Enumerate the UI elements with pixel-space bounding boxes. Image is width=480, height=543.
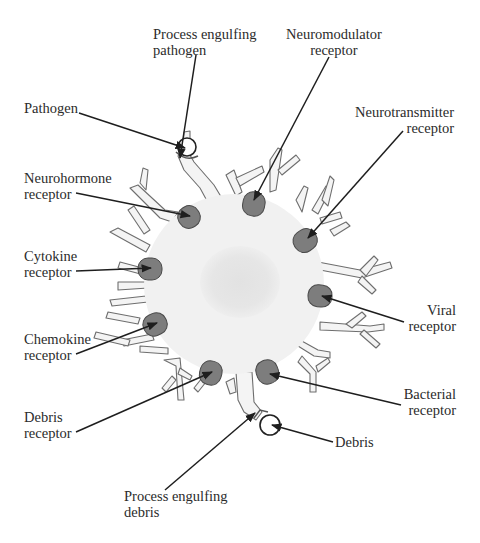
label-neurohormone-receptor: Neurohormone receptor bbox=[24, 170, 112, 202]
label-line: pathogen bbox=[153, 42, 257, 58]
leader-process-engulfing-debris bbox=[165, 413, 255, 490]
label-line: debris bbox=[124, 504, 228, 520]
label-line: Process engulfing bbox=[153, 26, 257, 42]
label-line: Viral bbox=[404, 302, 456, 318]
label-line: receptor bbox=[24, 264, 77, 280]
label-line: Process engulfing bbox=[124, 488, 228, 504]
label-viral-receptor: Viral receptor bbox=[404, 302, 456, 334]
label-pathogen: Pathogen bbox=[24, 100, 78, 116]
label-debris-receptor: Debris receptor bbox=[24, 409, 72, 441]
leader-debris bbox=[272, 425, 333, 442]
label-line: Debris bbox=[24, 409, 72, 425]
label-line: receptor bbox=[355, 120, 454, 136]
leader-neuromodulator bbox=[254, 57, 329, 200]
leader-pathogen bbox=[79, 113, 185, 148]
label-line: Chemokine bbox=[24, 331, 91, 347]
label-neuromodulator-receptor: Neuromodulator receptor bbox=[286, 26, 382, 58]
label-process-engulfing-debris: Process engulfing debris bbox=[124, 488, 228, 520]
label-line: receptor bbox=[400, 402, 456, 418]
label-line: Cytokine bbox=[24, 248, 77, 264]
pathogen-particle bbox=[176, 138, 198, 158]
label-line: Bacterial bbox=[400, 386, 456, 402]
label-cytokine-receptor: Cytokine receptor bbox=[24, 248, 77, 280]
label-process-engulfing-pathogen: Process engulfing pathogen bbox=[153, 26, 257, 58]
leader-debris-receptor bbox=[76, 372, 212, 432]
label-line: Neuromodulator bbox=[286, 26, 382, 42]
label-line: receptor bbox=[404, 318, 456, 334]
label-line: Pathogen bbox=[24, 100, 78, 116]
debris-particle bbox=[254, 410, 280, 435]
label-debris: Debris bbox=[335, 434, 374, 450]
label-line: Neurotransmitter bbox=[355, 104, 454, 120]
viral-receptor-icon bbox=[307, 284, 333, 308]
leader-neurotransmitter bbox=[308, 131, 403, 238]
nucleus bbox=[200, 246, 280, 318]
leader-bacterial bbox=[270, 374, 401, 405]
label-chemokine-receptor: Chemokine receptor bbox=[24, 331, 91, 363]
label-line: Debris bbox=[335, 434, 374, 450]
label-line: receptor bbox=[24, 425, 72, 441]
label-line: Neurohormone bbox=[24, 170, 112, 186]
label-line: receptor bbox=[24, 186, 112, 202]
label-neurotransmitter-receptor: Neurotransmitter receptor bbox=[355, 104, 454, 136]
label-line: receptor bbox=[24, 347, 91, 363]
label-bacterial-receptor: Bacterial receptor bbox=[400, 386, 456, 418]
label-line: receptor bbox=[286, 42, 382, 58]
